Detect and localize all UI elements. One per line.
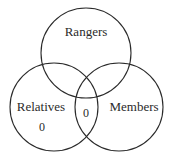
members-label: Members bbox=[109, 99, 158, 114]
rangers-circle bbox=[41, 8, 131, 98]
relatives-members-intersection-count: 0 bbox=[83, 106, 89, 120]
venn-diagram: Rangers Relatives Members 0 0 bbox=[0, 0, 173, 153]
rangers-label: Rangers bbox=[65, 24, 108, 39]
relatives-only-count: 0 bbox=[39, 120, 45, 134]
relatives-label: Relatives bbox=[17, 99, 65, 114]
